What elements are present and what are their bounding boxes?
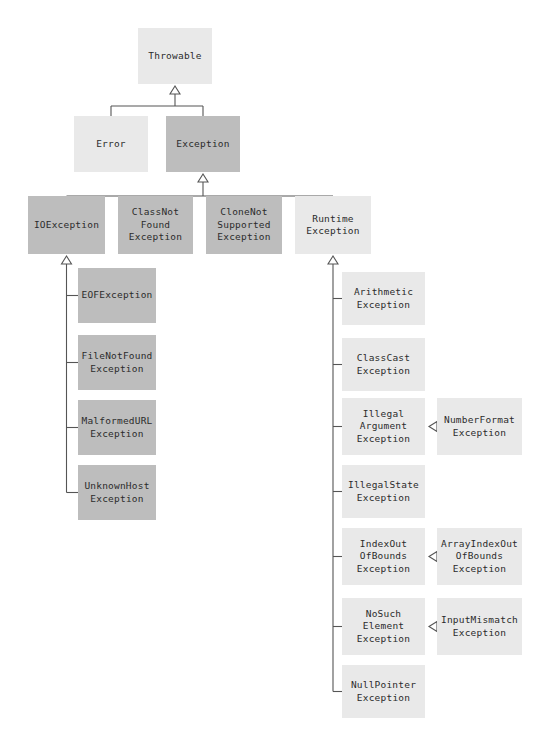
generalization-arrow-runtimeexception (328, 256, 338, 264)
generalization-arrow-illegalargument-from-numberformat (429, 422, 437, 432)
class-node-throwable: Throwable (138, 28, 212, 84)
class-hierarchy-diagram: ThrowableErrorExceptionIOExceptionClassN… (0, 0, 538, 742)
generalization-arrow-ioexception (62, 256, 72, 264)
class-node-malformedurl: MalformedURL Exception (78, 400, 156, 455)
class-node-exception: Exception (166, 116, 240, 172)
class-node-nosuchelement: NoSuch Element Exception (342, 598, 425, 655)
generalization-arrow-nosuchelement-from-inputmismatch (429, 622, 437, 632)
class-node-error: Error (74, 116, 148, 172)
class-node-ioexception: IOException (28, 196, 105, 254)
class-node-inputmismatch: InputMismatch Exception (437, 598, 522, 655)
generalization-arrow-exception (198, 174, 208, 182)
generalization-arrow-throwable (170, 86, 180, 94)
class-node-numberformat: NumberFormat Exception (437, 398, 522, 455)
class-node-nullpointer: NullPointer Exception (342, 665, 425, 718)
class-node-arithmetic: Arithmetic Exception (342, 272, 425, 325)
class-node-clonenotsupported: CloneNot Supported Exception (206, 196, 282, 254)
class-node-classnotfound: ClassNot Found Exception (118, 196, 193, 254)
class-node-runtimeexception: Runtime Exception (295, 196, 371, 254)
class-node-arrayindexoutofbounds: ArrayIndexOut OfBounds Exception (437, 528, 522, 585)
class-node-illegalstate: IllegalState Exception (342, 465, 425, 518)
class-node-unknownhost: UnknownHost Exception (78, 465, 156, 520)
class-node-filenotfound: FileNotFound Exception (78, 335, 156, 390)
class-node-illegalargument: Illegal Argument Exception (342, 398, 425, 455)
class-node-indexoutofbounds: IndexOut OfBounds Exception (342, 528, 425, 585)
class-node-eofexception: EOFException (78, 268, 156, 323)
class-node-classcast: ClassCast Exception (342, 338, 425, 391)
generalization-arrow-indexoutofbounds-from-arrayindexoutofbounds (429, 552, 437, 562)
